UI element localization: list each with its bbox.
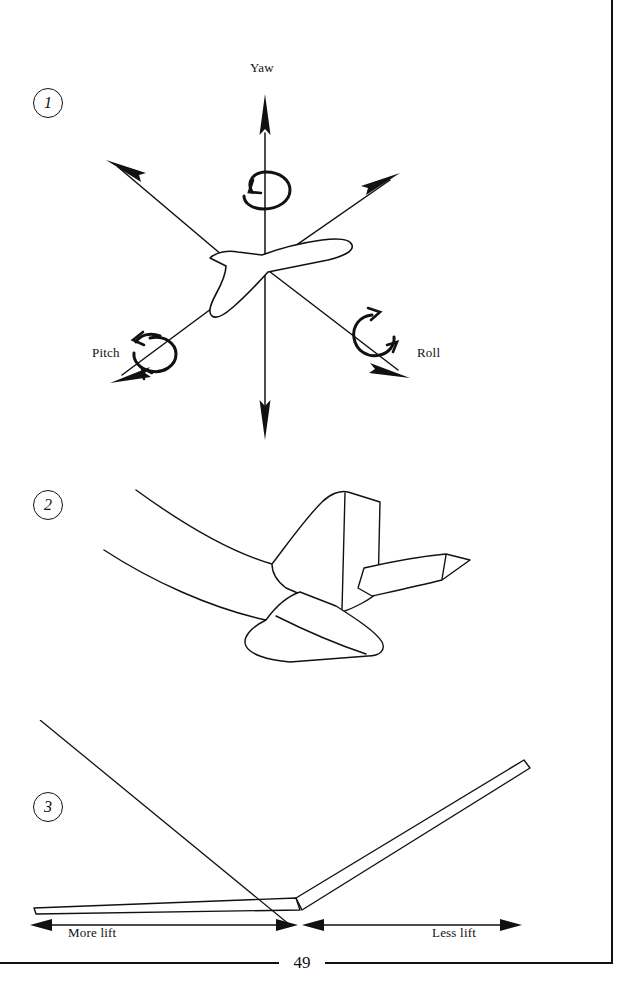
figure-2-t-tail-drawing (90, 460, 510, 690)
pitch-axis-rear-line (118, 167, 222, 255)
yaw-down-arrowhead (260, 400, 271, 440)
aircraft-silhouette-icon (210, 239, 352, 317)
yaw-rotation-arrow-icon (244, 172, 290, 209)
less-lift-label: Less lift (432, 925, 476, 941)
yaw-up-arrowhead (260, 94, 271, 135)
roll-label: Roll (417, 345, 440, 361)
roll-rear-arrowhead (361, 173, 400, 195)
dimension-arrow-left-inner-icon (276, 919, 298, 931)
fuselage-lower-line (104, 550, 266, 620)
fuselage-upper-line (136, 490, 272, 564)
yaw-label: Yaw (250, 60, 274, 76)
vertical-stabilizer-outline (272, 491, 380, 612)
figure-number-2: 2 (33, 490, 63, 520)
pitch-rear-arrowhead (106, 160, 146, 182)
figure-3-wing-dihedral-drawing (0, 720, 629, 960)
wing-outboard-section (296, 760, 530, 910)
dimension-arrow-right-icon (500, 919, 522, 931)
dimension-arrow-left-icon (30, 919, 52, 931)
book-page: 1 (0, 0, 629, 1003)
more-lift-label: More lift (68, 925, 116, 941)
page-trim-rule-vertical (611, 0, 613, 964)
figure-1-flight-axes-drawing (0, 40, 629, 460)
dimension-arrow-right-inner-icon (302, 919, 324, 931)
page-number: 49 (279, 950, 325, 976)
roll-front-arrowhead (369, 363, 410, 378)
dimension-line-more-lift (40, 720, 290, 925)
roll-rotation-arrow-icon (354, 308, 397, 356)
pitch-label: Pitch (92, 345, 120, 361)
